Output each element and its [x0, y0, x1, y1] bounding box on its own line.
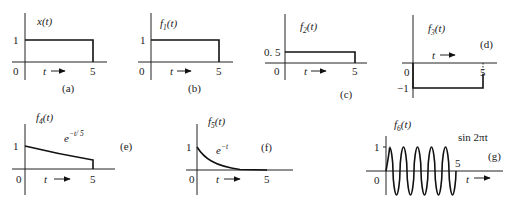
signal-f4 [25, 146, 93, 169]
signal-x [25, 40, 93, 62]
caption: (a) [62, 82, 75, 95]
x-five-label: 5 [90, 65, 96, 77]
panel-a: x(t) 1 0 5 t (a) [12, 13, 107, 95]
function-label: x(t) [36, 15, 53, 28]
expression-label: sin 2πt [458, 131, 488, 143]
y-tick-label: 1 [13, 140, 19, 152]
x-zero-label: 0 [139, 65, 145, 77]
t-label: t [170, 65, 174, 77]
y-tick-label: 1 [186, 141, 192, 153]
x-five-label: 5 [480, 66, 486, 78]
signal-f1 [151, 40, 219, 62]
x-five-label: 5 [352, 65, 358, 77]
y-tick-label: 0. 5 [264, 46, 281, 58]
x-five-label: 5 [264, 173, 270, 185]
y-tick-label: 1 [13, 34, 19, 46]
panel-d: f3(t) (d) t 0 5 −1 [397, 15, 497, 98]
x-five-label: 5 [90, 173, 96, 185]
signal-f5 [197, 147, 267, 170]
y-tick-label: −1 [397, 82, 409, 94]
signal-f3 [413, 63, 483, 88]
function-label: f2(t) [300, 20, 318, 35]
x-zero-label: 0 [16, 173, 22, 185]
expression-label: e−t/ 5 [64, 129, 84, 144]
function-label: f5(t) [208, 115, 226, 130]
caption: (b) [188, 82, 201, 95]
t-label: t [466, 173, 470, 185]
function-label: f3(t) [428, 22, 446, 37]
signals-figure: x(t) 1 0 5 t (a) f1(t) 1 0 5 t (b) f2(t)… [0, 0, 513, 202]
caption: (e) [120, 140, 133, 153]
panel-b: f1(t) 1 0 5 t (b) [138, 13, 233, 95]
x-five-label: 5 [216, 65, 222, 77]
x-zero-label: 0 [404, 66, 410, 78]
y-tick-label: 1 [374, 141, 380, 153]
t-label: t [432, 49, 436, 61]
function-label: f6(t) [394, 118, 412, 133]
caption: (g) [488, 150, 501, 163]
t-label: t [43, 65, 47, 77]
panel-f: f5(t) e−t (f) 1 0 5 t [186, 115, 293, 195]
y-tick-label: 1 [140, 34, 146, 46]
x-zero-label: 0 [374, 174, 380, 186]
t-label: t [304, 65, 308, 77]
t-label: t [216, 173, 220, 185]
x-zero-label: 0 [189, 173, 195, 185]
t-label: t [44, 173, 48, 185]
function-label: f4(t) [36, 111, 54, 126]
panel-g: f6(t) sin 2πt (g) 1 0 5 t [366, 118, 503, 195]
caption: (c) [340, 88, 353, 101]
expression-label: e−t [216, 142, 229, 156]
caption: (f) [261, 141, 272, 154]
x-five-label: 5 [455, 157, 461, 169]
caption: (d) [480, 38, 493, 51]
x-zero-label: 0 [274, 65, 280, 77]
panel-c: f2(t) 0. 5 0 5 t (c) [264, 14, 367, 101]
function-label: f1(t) [160, 17, 178, 32]
x-zero-label: 0 [13, 65, 19, 77]
signal-f2 [285, 52, 355, 63]
panel-e: f4(t) e−t/ 5 (e) 1 0 5 t [12, 111, 133, 195]
